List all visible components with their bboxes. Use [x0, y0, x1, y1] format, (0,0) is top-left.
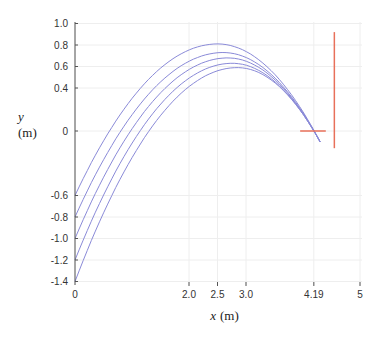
x-axis-label-unit: (m): [220, 308, 239, 323]
y-tick-label: 0.8: [54, 40, 68, 51]
y-axis-ticks: 1.00.80.60.40-0.6-0.8-1.0-1.2-1.4: [51, 18, 78, 287]
x-axis-label-var: x: [209, 308, 216, 323]
trajectory-curves: [75, 44, 320, 282]
y-tick-label: 1.0: [54, 18, 68, 29]
y-axis-label-var: y: [16, 109, 24, 124]
y-tick-label: -1.2: [51, 255, 69, 266]
y-tick-label: 0: [62, 126, 68, 137]
y-axis-label-unit: (m): [18, 125, 37, 140]
x-tick-label: 2.5: [211, 289, 225, 300]
x-tick-label: 2.0: [182, 289, 196, 300]
y-tick-label: 0.4: [54, 83, 68, 94]
y-tick-label: -0.8: [51, 212, 69, 223]
trajectory-curve: [75, 68, 320, 282]
trajectory-chart: 1.00.80.60.40-0.6-0.8-1.0-1.2-1.4 02.02.…: [0, 0, 382, 337]
x-tick-label: 4.19: [304, 289, 324, 300]
y-tick-label: -1.0: [51, 233, 69, 244]
x-tick-label: 0: [72, 289, 78, 300]
y-tick-label: -1.4: [51, 276, 69, 287]
trajectory-curve: [75, 53, 320, 218]
x-axis-ticks: 02.02.53.04.195: [72, 282, 363, 300]
y-tick-label: 0.6: [54, 61, 68, 72]
x-tick-label: 5: [357, 289, 363, 300]
x-tick-label: 3.0: [239, 289, 253, 300]
y-tick-label: -0.6: [51, 190, 69, 201]
gridlines: [75, 22, 362, 285]
